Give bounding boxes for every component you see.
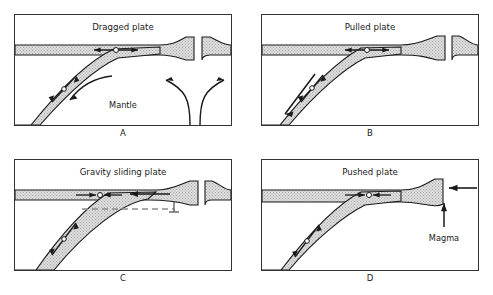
panel-c-diagram: Gravity sliding plate [14, 159, 232, 271]
panel-d-title: Pushed plate [342, 167, 398, 177]
panel-a-diagram: Dragged plate Mantle [14, 14, 232, 126]
panel-c-title: Gravity sliding plate [80, 167, 167, 177]
panel-d-letter: D [261, 273, 479, 283]
panel-b-letter: B [261, 128, 479, 138]
panel-c: Gravity sliding plate C [14, 159, 232, 271]
panel-c-letter: C [14, 273, 232, 283]
panel-a-title: Dragged plate [92, 22, 154, 32]
panel-a-mantle-label: Mantle [109, 100, 137, 110]
panel-d-diagram: Pushed plate Magma [261, 159, 479, 271]
plate-tectonics-figure: Dragged plate Mantle A [0, 0, 493, 295]
panel-d: Pushed plate Magma D [261, 159, 479, 271]
panel-a-letter: A [14, 128, 232, 138]
panel-a: Dragged plate Mantle A [14, 14, 232, 126]
panel-d-magma-label: Magma [429, 233, 459, 243]
panel-b-diagram: Pulled plate [261, 14, 479, 126]
panel-b: Pulled plate B [261, 14, 479, 126]
panel-b-title: Pulled plate [345, 22, 396, 32]
